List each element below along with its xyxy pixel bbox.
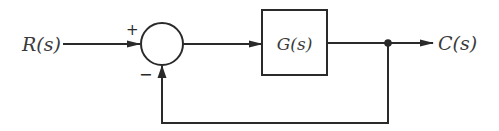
- minus-sign: −: [139, 65, 152, 84]
- output-label: C(s): [438, 32, 477, 54]
- block-diagram: R(s) + − G(s) C(s): [0, 0, 499, 131]
- feedback-arrowhead: [158, 65, 167, 78]
- plus-sign: +: [126, 21, 139, 39]
- input-label: R(s): [21, 33, 61, 55]
- diagram-svg: R(s) + − G(s) C(s): [0, 0, 499, 131]
- block-label: G(s): [277, 34, 313, 54]
- summing-junction: [141, 23, 183, 65]
